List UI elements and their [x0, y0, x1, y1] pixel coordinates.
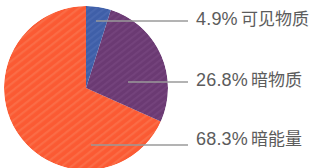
pie-label-visible-matter-percent: 4.9% — [196, 9, 238, 29]
pie-label-visible-matter: 4.9%可见物质 — [196, 10, 310, 29]
pie-label-dark-energy-name: 暗能量 — [251, 130, 303, 149]
pie-label-visible-matter-name: 可见物质 — [241, 10, 310, 29]
pie-chart-figure: 4.9%可见物质 26.8%暗物质 68.3%暗能量 — [0, 0, 319, 168]
pie-label-dark-matter-name: 暗物质 — [251, 71, 303, 90]
pie-label-dark-energy-percent: 68.3% — [196, 129, 248, 149]
pie-label-dark-energy: 68.3%暗能量 — [196, 130, 303, 149]
pie-label-dark-matter: 26.8%暗物质 — [196, 71, 303, 90]
pie-slices-group — [4, 6, 168, 168]
pie-label-dark-matter-percent: 26.8% — [196, 70, 248, 90]
